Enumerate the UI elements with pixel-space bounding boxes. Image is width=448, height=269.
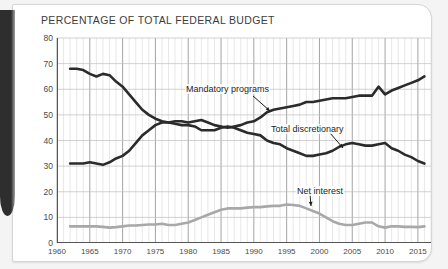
x-tick-label: 1985 — [212, 247, 230, 256]
y-tick-label: 70 — [31, 59, 53, 69]
chart-card: PERCENTAGE OF TOTAL FEDERAL BUDGET 01020… — [12, 4, 432, 262]
x-tick-label: 1975 — [147, 247, 165, 256]
y-tick-label: 30 — [31, 161, 53, 171]
x-tick-label: 1970 — [114, 247, 132, 256]
x-tick-label: 1990 — [245, 247, 263, 256]
x-tick-label: 1965 — [81, 247, 99, 256]
y-axis-labels: 01020304050607080 — [29, 38, 53, 243]
page-title: PERCENTAGE OF TOTAL FEDERAL BUDGET — [41, 14, 275, 26]
plot-area — [57, 38, 431, 243]
page-binding-edge — [0, 10, 15, 216]
screenshot-root: PERCENTAGE OF TOTAL FEDERAL BUDGET 01020… — [0, 0, 448, 269]
annotation-arrows — [57, 38, 431, 243]
x-tick-label: 1995 — [278, 247, 296, 256]
x-tick-label: 2005 — [343, 247, 361, 256]
x-axis-line — [57, 242, 431, 243]
y-tick-label: 50 — [31, 110, 53, 120]
series-label-discretionary: Total discretionary — [270, 124, 345, 134]
x-tick-label: 1960 — [48, 247, 66, 256]
x-tick-label: 1980 — [179, 247, 197, 256]
y-axis-line — [57, 38, 58, 243]
x-axis-labels: 1960196519701975198019851990199520002005… — [57, 247, 431, 261]
y-tick-label: 60 — [31, 84, 53, 94]
y-tick-label: 10 — [31, 212, 53, 222]
y-tick-label: 40 — [31, 136, 53, 146]
x-tick-label: 2000 — [311, 247, 329, 256]
arrow-net-interest-head — [309, 202, 313, 206]
y-tick-label: 80 — [31, 33, 53, 43]
y-tick-label: 20 — [31, 187, 53, 197]
x-tick-label: 2010 — [376, 247, 394, 256]
series-label-mandatory: Mandatory programs — [185, 84, 270, 94]
series-label-net-interest: Net interest — [296, 186, 344, 196]
x-tick-label: 2015 — [409, 247, 427, 256]
